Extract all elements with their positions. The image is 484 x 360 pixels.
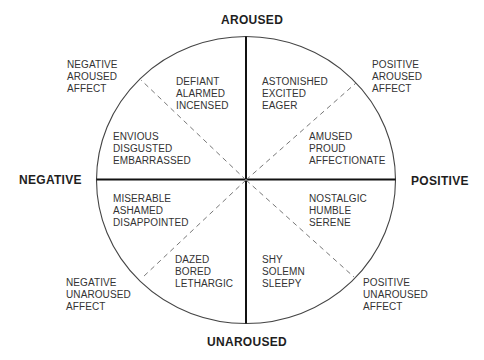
sector-defiant-alarmed-incensed: DEFIANT ALARMED INCENSED xyxy=(176,76,228,112)
emotion-word: INCENSED xyxy=(176,100,228,112)
emotion-word: EMBARRASSED xyxy=(113,155,191,167)
emotion-word: AFFECTIONATE xyxy=(309,155,386,167)
corner-label-line: UNAROUSED xyxy=(363,289,428,301)
emotion-word: DAZED xyxy=(175,254,233,266)
emotion-word: EXCITED xyxy=(262,88,328,100)
emotion-word: MISERABLE xyxy=(113,193,189,205)
corner-label-line: POSITIVE xyxy=(372,59,422,71)
emotion-word: EAGER xyxy=(262,100,328,112)
corner-label-line: AFFECT xyxy=(372,83,422,95)
emotion-word: ASTONISHED xyxy=(262,76,328,88)
sector-astonished-excited-eager: ASTONISHED EXCITED EAGER xyxy=(262,76,328,112)
corner-label-line: NEGATIVE xyxy=(66,277,131,289)
axis-label-positive: POSITIVE xyxy=(411,174,469,188)
emotion-word: SERENE xyxy=(309,217,367,229)
corner-label-negative-aroused-affect: NEGATIVE AROUSED AFFECT xyxy=(67,59,118,95)
emotion-word: PROUD xyxy=(309,143,386,155)
corner-label-negative-unaroused-affect: NEGATIVE UNAROUSED AFFECT xyxy=(66,277,131,313)
corner-label-line: NEGATIVE xyxy=(67,59,118,71)
emotion-word: AMUSED xyxy=(309,131,386,143)
emotion-word: SLEEPY xyxy=(262,278,305,290)
emotion-word: DISGUSTED xyxy=(113,143,191,155)
corner-label-line: UNAROUSED xyxy=(66,289,131,301)
corner-label-line: AROUSED xyxy=(372,71,422,83)
corner-label-positive-aroused-affect: POSITIVE AROUSED AFFECT xyxy=(372,59,422,95)
axis-label-negative: NEGATIVE xyxy=(19,173,82,187)
emotion-word: DISAPPOINTED xyxy=(113,217,189,229)
axis-label-aroused: AROUSED xyxy=(221,13,283,27)
emotion-word: BORED xyxy=(175,266,233,278)
emotion-word: SHY xyxy=(262,254,305,266)
emotion-word: NOSTALGIC xyxy=(309,193,367,205)
sector-envious-disgusted-embarrassed: ENVIOUS DISGUSTED EMBARRASSED xyxy=(113,131,191,167)
sector-miserable-ashamed-disappointed: MISERABLE ASHAMED DISAPPOINTED xyxy=(113,193,189,229)
corner-label-line: AFFECT xyxy=(66,301,131,313)
sector-dazed-bored-lethargic: DAZED BORED LETHARGIC xyxy=(175,254,233,290)
axis-label-unaroused: UNAROUSED xyxy=(207,335,287,349)
corner-label-line: AROUSED xyxy=(67,71,118,83)
emotion-word: ASHAMED xyxy=(113,205,189,217)
sector-nostalgic-humble-serene: NOSTALGIC HUMBLE SERENE xyxy=(309,193,367,229)
emotion-word: HUMBLE xyxy=(309,205,367,217)
corner-label-line: AFFECT xyxy=(363,301,428,313)
corner-label-line: POSITIVE xyxy=(363,277,428,289)
emotion-word: ENVIOUS xyxy=(113,131,191,143)
emotion-word: LETHARGIC xyxy=(175,278,233,290)
corner-label-line: AFFECT xyxy=(67,83,118,95)
emotion-word: DEFIANT xyxy=(176,76,228,88)
emotion-word: SOLEMN xyxy=(262,266,305,278)
sector-shy-solemn-sleepy: SHY SOLEMN SLEEPY xyxy=(262,254,305,290)
corner-label-positive-unaroused-affect: POSITIVE UNAROUSED AFFECT xyxy=(363,277,428,313)
emotion-word: ALARMED xyxy=(176,88,228,100)
sector-amused-proud-affectionate: AMUSED PROUD AFFECTIONATE xyxy=(309,131,386,167)
